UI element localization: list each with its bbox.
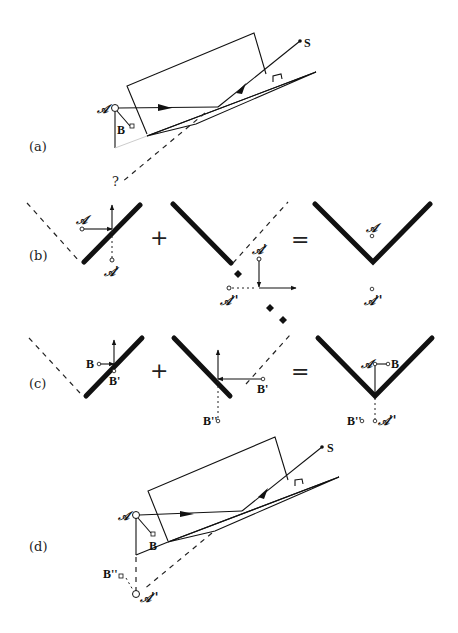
- point-b-square: [130, 124, 134, 128]
- panel-c: (c) B B' + B' B'' = 𝒜 B B'' 𝒜'': [29, 335, 432, 428]
- arrow-head-icon: [236, 83, 246, 94]
- label-a-double-c: 𝒜'': [377, 414, 396, 428]
- panel-label-b: (b): [29, 248, 47, 263]
- point-a-label: 𝒜: [96, 102, 113, 116]
- panel-b: (b) 𝒜 𝒜' + 𝒜' 𝒜'' = 𝒜 𝒜'': [27, 202, 430, 324]
- equals-sign: =: [291, 227, 309, 252]
- point-s-dot: [298, 39, 302, 43]
- point-a-circle: [112, 105, 119, 112]
- label-a: 𝒜: [75, 213, 92, 227]
- reflected-mirror-dashes: [234, 270, 287, 324]
- label-a-v: 𝒜: [365, 221, 382, 235]
- label-a-double-v: 𝒜'': [363, 294, 382, 308]
- label-a-prime: 𝒜': [103, 265, 120, 279]
- point-b-label-d: B: [149, 539, 157, 553]
- label-a-prime-mid: 𝒜': [251, 243, 268, 257]
- panel-a: (a) S 𝒜 B ?: [29, 33, 316, 189]
- plus-sign: +: [150, 225, 168, 250]
- label-b-c: B: [391, 357, 399, 371]
- mirror-left: [173, 204, 231, 263]
- label-b-prime-mid: B': [257, 382, 268, 396]
- point-a-double-label: 𝒜'': [139, 591, 158, 605]
- plus-sign-c: +: [150, 358, 168, 383]
- equals-sign-c: =: [291, 359, 309, 384]
- point-b-label: B: [117, 123, 125, 137]
- panel-label-a: (a): [29, 139, 47, 154]
- label-b: B: [86, 357, 94, 371]
- point-s-label: S: [304, 36, 311, 50]
- panel-label-d: (d): [29, 539, 47, 554]
- label-b-prime: B': [109, 374, 120, 388]
- point-a-label-d: 𝒜: [117, 509, 134, 523]
- retroreflection-diagram: (a) S 𝒜 B ? (b) 𝒜: [0, 0, 458, 633]
- panel-label-c: (c): [29, 376, 46, 391]
- panel-d: (d) S 𝒜 B B'' 𝒜'': [29, 437, 339, 605]
- unknown-marker: ?: [112, 174, 119, 189]
- point-b-double-label: B'': [103, 567, 118, 581]
- arrow-head-icon: [158, 104, 172, 111]
- point-s-label-d: S: [327, 441, 334, 455]
- label-a-double: 𝒜'': [219, 294, 238, 308]
- right-angle-icon: [273, 74, 282, 82]
- label-b-double: B'': [203, 414, 218, 428]
- dashed-extension-line: [122, 113, 205, 182]
- box-outline: [127, 33, 266, 134]
- label-b-double-c: B'': [347, 414, 362, 428]
